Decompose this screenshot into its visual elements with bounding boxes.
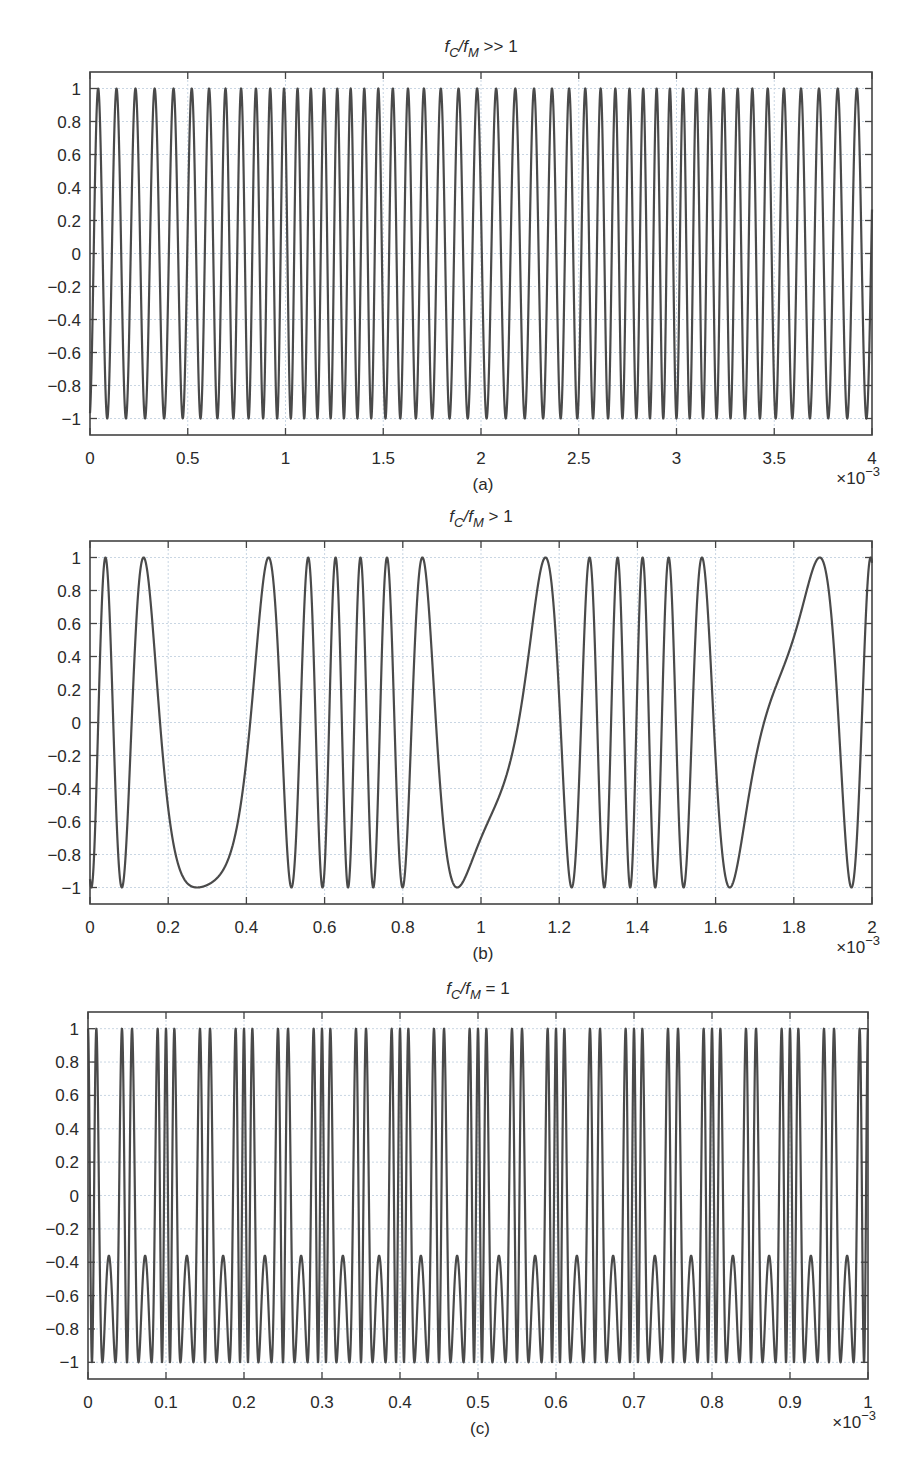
plot-panel-a: 00.511.522.533.5410.80.60.40.20−0.2−0.4−…: [47, 37, 880, 494]
x-tick-label: 0.5: [176, 449, 200, 468]
y-tick-label: −0.8: [47, 377, 81, 396]
y-tick-label: −1: [60, 1353, 79, 1372]
x-axis-multiplier: ×10−3: [836, 464, 880, 488]
y-tick-label: −0.6: [47, 813, 81, 832]
x-tick-label: 2: [476, 449, 485, 468]
y-tick-label: −0.4: [47, 780, 81, 799]
grid-lines: [90, 541, 872, 904]
y-tick-label: −0.4: [47, 311, 81, 330]
x-tick-label: 1.5: [371, 449, 395, 468]
x-tick-label: 0.2: [156, 918, 180, 937]
x-tick-label: 0.3: [310, 1393, 334, 1412]
y-tick-label: 1: [70, 1020, 79, 1039]
x-tick-label: 0.4: [235, 918, 259, 937]
y-tick-label: 0.2: [57, 681, 81, 700]
x-tick-label: 1: [281, 449, 290, 468]
x-tick-label: 0.8: [700, 1393, 724, 1412]
x-tick-label: 0.6: [544, 1393, 568, 1412]
y-tick-label: 0.4: [57, 648, 81, 667]
y-tick-label: −0.6: [47, 344, 81, 363]
plot-title: fC/fM > 1: [449, 507, 512, 530]
y-tick-label: −0.8: [45, 1320, 79, 1339]
x-axis-multiplier: ×10−3: [836, 933, 880, 957]
y-tick-label: −1: [62, 879, 81, 898]
y-tick-label: 1: [72, 80, 81, 99]
y-tick-label: 0.6: [57, 146, 81, 165]
y-tick-label: 0.8: [55, 1053, 79, 1072]
plot-title: fC/fM >> 1: [444, 37, 517, 60]
y-tick-label: −0.2: [47, 278, 81, 297]
x-tick-label: 0.2: [232, 1393, 256, 1412]
x-tick-label: 0.4: [388, 1393, 412, 1412]
x-tick-label: 0: [85, 449, 94, 468]
x-tick-label: 0: [85, 918, 94, 937]
y-tick-label: 0.2: [57, 212, 81, 231]
plot-panel-b: 00.20.40.60.811.21.41.61.8210.80.60.40.2…: [47, 507, 880, 963]
y-tick-label: 0.4: [55, 1120, 79, 1139]
x-tick-label: 1.8: [782, 918, 806, 937]
x-tick-label: 0.7: [622, 1393, 646, 1412]
x-tick-label: 3.5: [762, 449, 786, 468]
x-tick-label: 1.2: [547, 918, 571, 937]
x-tick-label: 3: [672, 449, 681, 468]
y-tick-label: −0.4: [45, 1253, 79, 1272]
figure-canvas: 00.511.522.533.5410.80.60.40.20−0.2−0.4−…: [0, 0, 921, 1470]
x-tick-label: 0.5: [466, 1393, 490, 1412]
y-tick-label: −1: [62, 410, 81, 429]
x-tick-label: 0.1: [154, 1393, 178, 1412]
x-tick-label: 0.6: [313, 918, 337, 937]
x-tick-label: 0: [83, 1393, 92, 1412]
panel-caption: (a): [473, 475, 494, 494]
y-tick-label: 0.8: [57, 582, 81, 601]
x-tick-label: 1.4: [626, 918, 650, 937]
y-tick-label: −0.2: [47, 747, 81, 766]
plot-title: fC/fM = 1: [446, 979, 509, 1002]
y-tick-label: 0: [70, 1187, 79, 1206]
y-tick-label: 1: [72, 549, 81, 568]
panel-caption: (b): [473, 944, 494, 963]
y-tick-label: −0.8: [47, 846, 81, 865]
y-tick-label: −0.6: [45, 1287, 79, 1306]
x-tick-label: 1: [476, 918, 485, 937]
x-tick-label: 0.9: [778, 1393, 802, 1412]
y-tick-label: 0.6: [57, 615, 81, 634]
panel-caption: (c): [470, 1419, 490, 1438]
y-tick-label: 0.8: [57, 113, 81, 132]
plot-panel-c: 00.10.20.30.40.50.60.70.80.9110.80.60.40…: [45, 979, 876, 1438]
y-tick-label: −0.2: [45, 1220, 79, 1239]
y-tick-label: 0: [72, 714, 81, 733]
y-tick-label: 0.4: [57, 179, 81, 198]
x-tick-label: 2.5: [567, 449, 591, 468]
x-tick-label: 1.6: [704, 918, 728, 937]
x-axis-multiplier: ×10−3: [832, 1408, 876, 1432]
y-tick-label: 0.6: [55, 1086, 79, 1105]
x-tick-label: 0.8: [391, 918, 415, 937]
y-tick-label: 0: [72, 245, 81, 264]
y-tick-label: 0.2: [55, 1153, 79, 1172]
